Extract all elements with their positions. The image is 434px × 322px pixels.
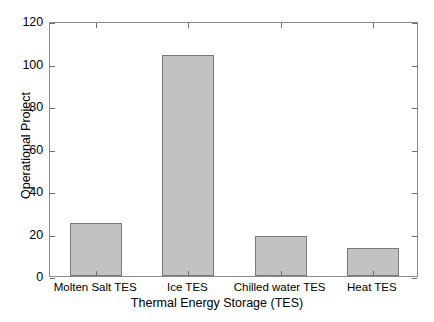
x-tick-mark-top xyxy=(281,23,282,28)
y-tick-mark xyxy=(50,278,55,279)
x-tick-label: Molten Salt TES xyxy=(54,281,137,293)
y-tick-label: 0 xyxy=(0,271,43,284)
y-tick-mark xyxy=(50,151,55,152)
y-tick-mark-right xyxy=(412,23,417,24)
chart-figure: Operational Project Thermal Energy Stora… xyxy=(0,0,434,322)
x-axis-title: Thermal Energy Storage (TES) xyxy=(0,297,434,310)
x-tick-mark-top xyxy=(96,23,97,28)
y-tick-label: 100 xyxy=(0,59,43,72)
x-tick-mark-top xyxy=(188,23,189,28)
y-tick-label: 120 xyxy=(0,16,43,29)
y-tick-label: 20 xyxy=(0,229,43,242)
x-tick-mark xyxy=(188,271,189,276)
x-tick-mark-top xyxy=(373,23,374,28)
y-tick-mark-right xyxy=(412,108,417,109)
y-tick-mark xyxy=(50,236,55,237)
y-tick-mark-right xyxy=(412,278,417,279)
y-tick-mark xyxy=(50,108,55,109)
bar xyxy=(255,236,307,276)
y-tick-mark xyxy=(50,66,55,67)
x-tick-mark xyxy=(281,271,282,276)
bar xyxy=(162,55,214,276)
x-tick-label: Ice TES xyxy=(167,281,208,293)
x-tick-label: Chilled water TES xyxy=(234,281,326,293)
y-tick-label: 60 xyxy=(0,144,43,157)
y-tick-mark xyxy=(50,193,55,194)
x-tick-mark xyxy=(373,271,374,276)
bar xyxy=(70,223,122,276)
y-tick-mark xyxy=(50,23,55,24)
y-tick-mark-right xyxy=(412,193,417,194)
x-tick-label: Heat TES xyxy=(347,281,397,293)
plot-area xyxy=(49,22,418,277)
y-tick-label: 80 xyxy=(0,101,43,114)
y-tick-mark-right xyxy=(412,236,417,237)
x-tick-mark xyxy=(96,271,97,276)
y-tick-mark-right xyxy=(412,151,417,152)
y-tick-label: 40 xyxy=(0,186,43,199)
y-tick-mark-right xyxy=(412,66,417,67)
